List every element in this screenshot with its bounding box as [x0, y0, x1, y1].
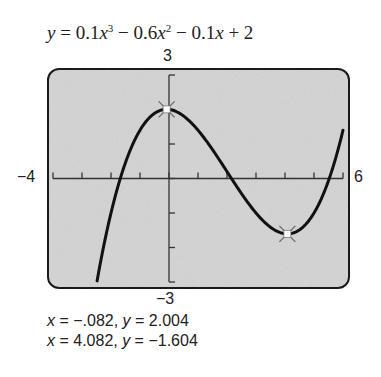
readout-var: y	[123, 312, 131, 329]
readout-value: = −1.604	[130, 332, 198, 349]
readout-min: x = 4.082, y = −1.604	[47, 332, 198, 350]
readout-max: x = −.082, y = 2.004	[47, 312, 189, 330]
readout-var: x	[47, 332, 55, 349]
readout-value: = −.082,	[55, 312, 123, 329]
readout-var: y	[122, 332, 130, 349]
readout-value: = 2.004	[131, 312, 189, 329]
readout-var: x	[47, 312, 55, 329]
readout-value: = 4.082,	[55, 332, 122, 349]
